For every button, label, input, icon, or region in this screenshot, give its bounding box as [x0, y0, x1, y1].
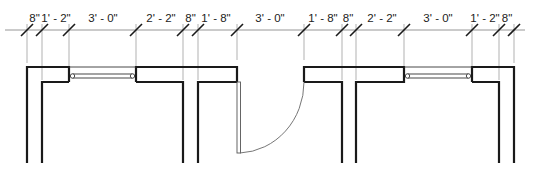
window-left [69, 67, 136, 82]
door-leaf [237, 82, 241, 153]
dim-label-12: 1' - 2" [470, 12, 499, 24]
dim-label-2: 1' - 2" [41, 12, 70, 24]
wall-right-inner [472, 82, 499, 163]
dim-label-10: 2' - 2" [367, 12, 396, 24]
dimension-string: 8" 1' - 2" 3' - 0" 2' - 2" 8" 1' - 8" 3'… [5, 12, 525, 80]
dim-label-8: 1' - 8" [308, 12, 337, 24]
window-right [404, 67, 472, 78]
door-center [237, 82, 304, 153]
dim-label-9: 8" [343, 12, 353, 24]
wall-left-partition [136, 82, 183, 163]
dim-label-11: 3' - 0" [423, 12, 452, 24]
wall-left-inner [42, 82, 69, 163]
dimension-labels: 8" 1' - 2" 3' - 0" 2' - 2" 8" 1' - 8" 3'… [29, 12, 512, 24]
dim-label-1: 8" [29, 12, 39, 24]
wall-right-partition [304, 82, 342, 163]
dim-label-7: 3' - 0" [255, 12, 284, 24]
dim-label-6: 1' - 8" [201, 12, 230, 24]
walls [27, 67, 514, 163]
door-swing-arc [240, 82, 304, 153]
extension-lines [27, 24, 514, 80]
dim-label-5: 8" [185, 12, 195, 24]
dim-label-4: 2' - 2" [146, 12, 175, 24]
floor-plan-drawing: 8" 1' - 2" 3' - 0" 2' - 2" 8" 1' - 8" 3'… [0, 0, 539, 172]
dim-label-13: 8" [502, 12, 512, 24]
dim-label-3: 3' - 0" [88, 12, 117, 24]
